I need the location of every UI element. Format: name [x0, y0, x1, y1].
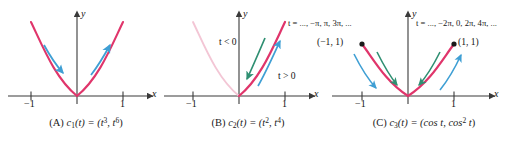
panel-b-y-axis-label: y [243, 8, 247, 19]
panel-b-tick-left: −1 [186, 98, 197, 109]
panel-c-point-label-right: (1, 1) [458, 36, 479, 47]
panel-a-caption-body: (t) = (t [75, 117, 104, 128]
panel-a-x-axis-label: x [152, 88, 156, 99]
panel-c-caption-body: (t) = (cos t, cos [398, 117, 463, 128]
panel-a-tick-left: −1 [24, 98, 35, 109]
panel-b-t-positive-label: t > 0 [278, 70, 296, 81]
panel-b-caption: (B) c2(t) = (t2, t4) [162, 116, 334, 130]
panel-b-t-negative-label: t < 0 [219, 36, 237, 47]
panel-b-axes [164, 16, 310, 104]
panel-c-t-label-left: t = ..., −π, π, 3π, ... [288, 18, 352, 28]
panel-b-curve-traced [239, 22, 285, 96]
panel-c: x y −1 1 t = ..., −π, π, 3π, ... t = ...… [330, 0, 518, 144]
panel-c-caption-prefix: (C) [373, 117, 387, 128]
parametric-curves-figure: x y −1 1 (A) c1(t) = (t3, t6) [0, 0, 518, 144]
panel-a-plot: x y −1 1 [0, 0, 172, 118]
panel-a-y-axis-label: y [81, 8, 85, 19]
panel-c-tick-left: −1 [355, 98, 366, 109]
panel-c-endpoint-right [451, 41, 456, 46]
panel-b-t-negative-arrow [247, 38, 265, 79]
panel-b-caption-body: (t) = (t [237, 117, 266, 128]
panel-b-caption-end: ) [281, 117, 285, 128]
panel-a: x y −1 1 (A) c1(t) = (t3, t6) [0, 0, 172, 144]
panel-c-x-axis-label: x [494, 88, 498, 99]
panel-c-caption: (C) c3(t) = (cos t, cos2 t) [330, 116, 518, 130]
panel-c-axes [332, 16, 490, 104]
panel-b-curve-untraced [193, 22, 239, 96]
panel-b-caption-mid: , t [269, 117, 277, 128]
panel-c-plot: x y −1 1 t = ..., −π, π, 3π, ... t = ...… [330, 0, 518, 118]
panel-b-x-axis-label: x [314, 88, 318, 99]
panel-a-tick-right: 1 [120, 98, 125, 109]
panel-c-point-label-left: (−1, 1) [317, 36, 343, 47]
panel-a-caption: (A) c1(t) = (t3, t6) [0, 116, 172, 130]
panel-a-caption-prefix: (A) [49, 117, 64, 128]
panel-c-tick-right: 1 [451, 98, 456, 109]
panel-c-endpoint-left [359, 41, 364, 46]
panel-b-tick-right: 1 [282, 98, 287, 109]
panel-a-axes [8, 16, 148, 104]
panel-a-caption-end: ) [119, 117, 123, 128]
panel-c-t-label-right: t = ..., −2π, 0, 2π, 4π, ... [416, 18, 497, 28]
panel-a-right-branch-arrow [91, 45, 110, 75]
panel-c-caption-end: ) [472, 117, 476, 128]
panel-b-caption-prefix: (B) [212, 117, 226, 128]
